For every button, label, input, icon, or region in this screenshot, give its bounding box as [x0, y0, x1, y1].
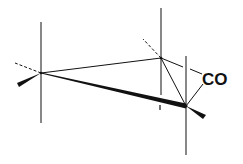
wedge-bond-left-right [41, 73, 186, 109]
bond-right-co [186, 84, 203, 106]
co-label: CO [202, 70, 228, 89]
wedge-ligand-right [186, 106, 206, 119]
atom-middle [160, 57, 163, 60]
bond-left-middle [41, 58, 161, 73]
dashed-bond-middle [143, 39, 161, 58]
bond-middle-right [161, 58, 186, 106]
wedge-ligand-left [17, 73, 41, 87]
atom-left [40, 72, 43, 75]
atom-right [184, 104, 187, 107]
molecular-diagram: CO [0, 0, 243, 164]
dashed-bond-left [15, 63, 41, 73]
bond-middle-co-dashed [190, 69, 202, 74]
bond-middle-co-solid [161, 58, 183, 67]
